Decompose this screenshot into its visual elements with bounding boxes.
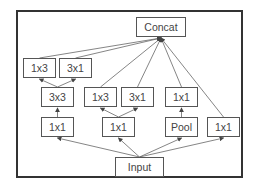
node-b1-1x3: 1x3: [23, 58, 56, 78]
edge-b1_3x3-to-b1_3x1: [58, 79, 76, 87]
edge-b3_1x1_top-to-concat: [161, 38, 182, 87]
node-input: Input: [115, 157, 164, 177]
node-b3-pool: Pool: [165, 117, 198, 137]
node-b4-1x1: 1x1: [207, 117, 240, 137]
node-b1-3x3: 3x3: [41, 87, 74, 107]
node-b2-1x3: 1x3: [84, 87, 117, 107]
edge-b2_3x1-to-concat: [138, 38, 162, 87]
edge-b2_1x1-to-b2_3x1: [119, 108, 138, 117]
node-b1-3x1: 3x1: [59, 58, 92, 78]
edge-input-to-b1_1x1: [58, 138, 140, 157]
edge-input-to-b2_1x1: [119, 138, 140, 157]
edge-input-to-b3_pool: [140, 138, 182, 157]
node-b3-1x1-top: 1x1: [165, 87, 198, 107]
node-b2-1x1: 1x1: [102, 117, 135, 137]
node-concat: Concat: [136, 17, 186, 37]
edge-input-to-b4_1x1: [140, 138, 224, 157]
edge-b1_3x3-to-b1_1x3: [40, 79, 58, 87]
node-b2-3x1: 3x1: [121, 87, 154, 107]
edge-b2_1x1-to-b2_1x3: [101, 108, 119, 117]
node-b1-1x1: 1x1: [41, 117, 74, 137]
edge-b1_1x3-to-concat: [40, 38, 162, 58]
